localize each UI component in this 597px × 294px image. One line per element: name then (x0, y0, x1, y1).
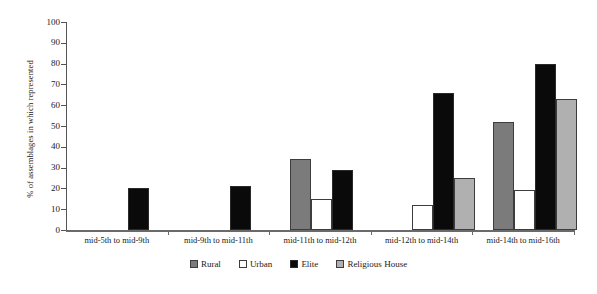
x-axis-category-label: mid-9th to mid-11th (168, 235, 270, 245)
legend-item-label: Religious House (347, 259, 407, 269)
y-axis-tick (61, 209, 66, 210)
elite-swatch-icon (290, 260, 298, 268)
religious-house-swatch-icon (336, 260, 344, 268)
bar-elite (230, 186, 251, 230)
bar-elite (433, 93, 454, 230)
rural-swatch-icon (190, 260, 198, 268)
bar-elite (332, 170, 353, 230)
bar-urban (311, 199, 332, 230)
y-axis-tick (61, 230, 66, 231)
y-axis-tick (61, 188, 66, 189)
y-axis-tick-label: 10 (20, 205, 60, 214)
x-axis-line (66, 230, 574, 232)
x-axis-category-label: mid-11th to mid-12th (269, 235, 371, 245)
y-axis-tick (61, 22, 66, 23)
plot-area: 0102030405060708090100 (66, 22, 574, 230)
bar-elite (535, 64, 556, 230)
y-axis-tick (61, 64, 66, 65)
chart-legend: RuralUrbanEliteReligious House (0, 259, 597, 269)
y-axis-tick (61, 168, 66, 169)
y-axis-line (66, 22, 67, 230)
x-axis-category-label: mid-12th to mid-14th (371, 235, 473, 245)
y-axis-tick (61, 43, 66, 44)
x-axis-category-label: mid-14th to mid-16th (472, 235, 574, 245)
bar-rural (290, 159, 311, 230)
y-axis-tick-label: 90 (20, 38, 60, 47)
bar-urban (412, 205, 433, 230)
y-axis-tick (61, 105, 66, 106)
legend-item-label: Urban (250, 259, 273, 269)
y-axis-tick-label: 50 (20, 122, 60, 131)
legend-item-label: Rural (201, 259, 221, 269)
bar-religious (556, 99, 577, 230)
bar-religious (454, 178, 475, 230)
y-axis-tick-label: 100 (20, 18, 60, 27)
y-axis-tick-label: 40 (20, 142, 60, 151)
bar-rural (493, 122, 514, 230)
bar-chart: % of assemblages in which represented 01… (0, 0, 597, 294)
y-axis-tick-label: 20 (20, 184, 60, 193)
y-axis-tick (61, 84, 66, 85)
y-axis-tick-label: 60 (20, 101, 60, 110)
x-axis-tick (574, 230, 575, 235)
y-axis-tick-label: 30 (20, 163, 60, 172)
bar-urban (514, 190, 535, 230)
bar-elite (128, 188, 149, 230)
urban-swatch-icon (239, 260, 247, 268)
legend-item-urban[interactable]: Urban (239, 259, 273, 269)
y-axis-tick (61, 147, 66, 148)
y-axis-tick-label: 70 (20, 80, 60, 89)
legend-item-elite[interactable]: Elite (290, 259, 318, 269)
y-axis-tick-label: 0 (20, 226, 60, 235)
y-axis-tick (61, 126, 66, 127)
legend-item-label: Elite (301, 259, 318, 269)
legend-item-rural[interactable]: Rural (190, 259, 221, 269)
legend-item-religious-house[interactable]: Religious House (336, 259, 407, 269)
x-axis-category-label: mid-5th to mid-9th (66, 235, 168, 245)
y-axis-tick-label: 80 (20, 59, 60, 68)
